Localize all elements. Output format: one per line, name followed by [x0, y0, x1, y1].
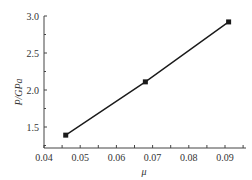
series-line	[66, 22, 229, 135]
chart: 1.52.02.53.0 0.040.050.060.070.080.09 P/…	[0, 0, 252, 180]
x-axis-label: μ	[140, 166, 146, 177]
square-marker	[63, 133, 68, 138]
x-tick-label: 0.08	[180, 152, 198, 163]
x-tick-label: 0.07	[144, 152, 162, 163]
y-axis-label: P/GPa	[13, 78, 24, 106]
square-marker	[143, 79, 148, 84]
x-tick-label: 0.09	[216, 152, 234, 163]
x-tick-label: 0.05	[71, 152, 89, 163]
y-tick-label: 3.0	[27, 11, 40, 22]
x-tick-label: 0.06	[108, 152, 126, 163]
y-tick-label: 1.5	[27, 122, 40, 133]
y-tick-label: 2.5	[27, 48, 40, 59]
square-marker	[226, 19, 231, 24]
data-series	[63, 19, 231, 137]
y-tick-label: 2.0	[27, 85, 40, 96]
x-tick-label: 0.04	[35, 152, 53, 163]
